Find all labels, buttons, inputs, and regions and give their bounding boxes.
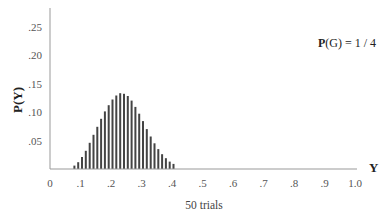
x-tick-label: .1	[76, 177, 84, 189]
x-tick-label: .6	[229, 177, 238, 189]
y-tick-labels: .05.10.15.20.25	[28, 21, 42, 147]
x-tick-label: 0	[47, 177, 53, 189]
bar	[119, 93, 121, 169]
x-tick-label: .9	[320, 177, 329, 189]
bar	[112, 100, 114, 170]
bar	[93, 135, 95, 169]
x-axis-title: Y	[369, 160, 379, 175]
x-tick-label: .4	[168, 177, 177, 189]
x-tick-label: .5	[198, 177, 207, 189]
bar	[157, 149, 159, 169]
y-tick-label: .25	[28, 21, 42, 33]
bar	[81, 157, 83, 169]
x-tick-label: .3	[137, 177, 146, 189]
bar	[108, 105, 110, 169]
bar	[161, 154, 163, 169]
bar	[115, 96, 117, 170]
bar	[138, 114, 140, 169]
probability-annotation: P(G) = 1 / 4	[318, 36, 376, 50]
y-tick-label: .20	[28, 49, 42, 61]
x-tick-label: .8	[290, 177, 299, 189]
bar	[85, 151, 87, 169]
y-tick-label: .15	[28, 78, 42, 90]
bar	[146, 129, 148, 169]
bars	[73, 93, 174, 169]
trials-caption: 50 trials	[185, 199, 223, 211]
bar	[77, 162, 79, 169]
x-tick-labels: 0.1.2.3.4.5.6.7.8.91.0	[47, 177, 362, 189]
x-tick-label: .2	[107, 177, 115, 189]
bar	[150, 137, 152, 170]
bar	[131, 101, 133, 169]
bar	[173, 164, 175, 169]
bar	[169, 162, 171, 169]
y-tick-label: .05	[28, 135, 42, 147]
bar	[104, 111, 106, 169]
bar	[154, 143, 156, 169]
bar	[127, 96, 129, 169]
x-tick-label: 1.0	[348, 177, 362, 189]
y-tick-label: .10	[28, 106, 42, 118]
bar	[142, 121, 144, 169]
x-tick-label: .7	[259, 177, 268, 189]
bar	[73, 166, 75, 169]
bar	[134, 107, 136, 169]
y-axis-title: P(Y)	[10, 87, 25, 113]
binomial-distribution-chart: 0.1.2.3.4.5.6.7.8.91.0 .05.10.15.20.25 Y…	[0, 0, 391, 218]
bar	[123, 94, 125, 169]
bar	[89, 143, 91, 169]
bar	[96, 127, 98, 169]
bar	[100, 119, 102, 169]
bar	[165, 158, 167, 169]
